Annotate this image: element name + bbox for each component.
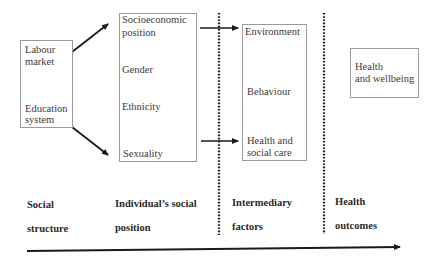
label-environment: Environment — [245, 26, 300, 38]
column-label-health-1: Health — [335, 196, 365, 207]
label-and-wellbeing: and wellbeing — [355, 73, 414, 85]
label-market: market — [25, 56, 54, 68]
arrow-labour-to-socioeconomic — [72, 24, 108, 52]
label-ethnicity: Ethnicity — [122, 101, 161, 113]
label-health: Health — [355, 61, 383, 73]
label-sexuality: Sexuality — [123, 148, 163, 160]
label-social-care: social care — [247, 147, 292, 159]
timeline-arrow — [27, 247, 400, 251]
column-label-social-structure-1: Social — [27, 199, 54, 210]
column-label-health-2: outcomes — [335, 220, 377, 231]
column-label-individual-1: Individual’s social — [115, 198, 197, 209]
column-label-intermediary-2: factors — [232, 221, 263, 232]
label-labour: Labour — [25, 44, 55, 56]
label-socioeconomic: Socioeconomic — [122, 14, 187, 26]
label-gender: Gender — [122, 64, 153, 76]
column-label-individual-2: position — [115, 222, 151, 233]
label-position: position — [122, 27, 156, 39]
column-label-social-structure-2: structure — [27, 223, 68, 234]
label-system: system — [25, 114, 54, 126]
column-label-intermediary-1: Intermediary — [232, 197, 292, 208]
arrow-education-to-sexuality — [72, 127, 108, 155]
label-behaviour: Behaviour — [247, 86, 291, 98]
label-health-and: Health and — [247, 135, 293, 147]
